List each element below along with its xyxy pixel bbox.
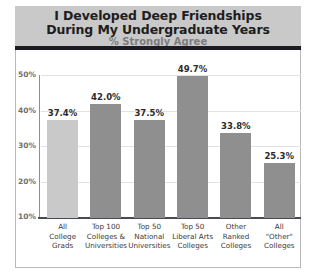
category-label-line: All	[255, 222, 304, 232]
category-label: OtherRankedColleges	[212, 222, 261, 251]
bar-value-label: 37.5%	[124, 109, 175, 118]
bar[interactable]	[177, 76, 208, 218]
y-axis-tick-20: 20%	[2, 178, 36, 186]
category-label-line: Colleges	[255, 241, 304, 251]
chart-container: I Developed Deep Friendships During My U…	[0, 0, 316, 275]
y-axis-tick-50: 50%	[2, 71, 36, 79]
bar-value-label: 33.8%	[210, 122, 261, 131]
bar[interactable]	[90, 104, 121, 218]
bar-slot: 25.3%	[258, 75, 301, 218]
bar[interactable]	[264, 163, 295, 218]
category-label-line: Universities	[125, 241, 174, 251]
category-label-line: Top 50	[168, 222, 217, 232]
bar[interactable]	[134, 120, 165, 218]
bar-value-label: 37.4%	[37, 109, 88, 118]
bar-value-label: 42.0%	[80, 93, 131, 102]
category-label-line: Colleges &	[82, 232, 131, 242]
category-label-line: Ranked	[212, 232, 261, 242]
y-axis-tick-30: 30%	[2, 142, 36, 150]
y-axis-line	[39, 75, 40, 218]
category-label-line: College	[38, 232, 87, 242]
bar-slot: 33.8%	[214, 75, 257, 218]
bar-value-label: 25.3%	[254, 152, 305, 161]
y-axis-tick-10: 10%	[2, 213, 36, 221]
bars-layer: 37.4%42.0%37.5%49.7%33.8%25.3%	[41, 75, 301, 218]
category-label-line: National	[125, 232, 174, 242]
bar-slot: 42.0%	[84, 75, 127, 218]
category-label-line: Other	[212, 222, 261, 232]
category-label: All"Other"Colleges	[255, 222, 304, 251]
category-label-line: All	[38, 222, 87, 232]
category-label-line: Top 50	[125, 222, 174, 232]
bar-slot: 37.4%	[41, 75, 84, 218]
category-label: Top 100Colleges &Universities	[82, 222, 131, 251]
category-label-line: Top 100	[82, 222, 131, 232]
bar-slot: 37.5%	[128, 75, 171, 218]
category-label-line: Universities	[82, 241, 131, 251]
bar[interactable]	[47, 120, 78, 218]
category-label: Top 50Liberal ArtsColleges	[168, 222, 217, 251]
bar[interactable]	[220, 133, 251, 218]
category-label-line: Liberal Arts	[168, 232, 217, 242]
bar-value-label: 49.7%	[167, 65, 218, 74]
category-label-line: Colleges	[212, 241, 261, 251]
category-label: AllCollegeGrads	[38, 222, 87, 251]
category-label-line: "Other"	[255, 232, 304, 242]
bar-slot: 49.7%	[171, 75, 214, 218]
category-label-line: Colleges	[168, 241, 217, 251]
category-label: Top 50NationalUniversities	[125, 222, 174, 251]
category-labels: AllCollegeGradsTop 100Colleges &Universi…	[41, 222, 301, 268]
y-axis-tick-40: 40%	[2, 107, 36, 115]
category-label-line: Grads	[38, 241, 87, 251]
